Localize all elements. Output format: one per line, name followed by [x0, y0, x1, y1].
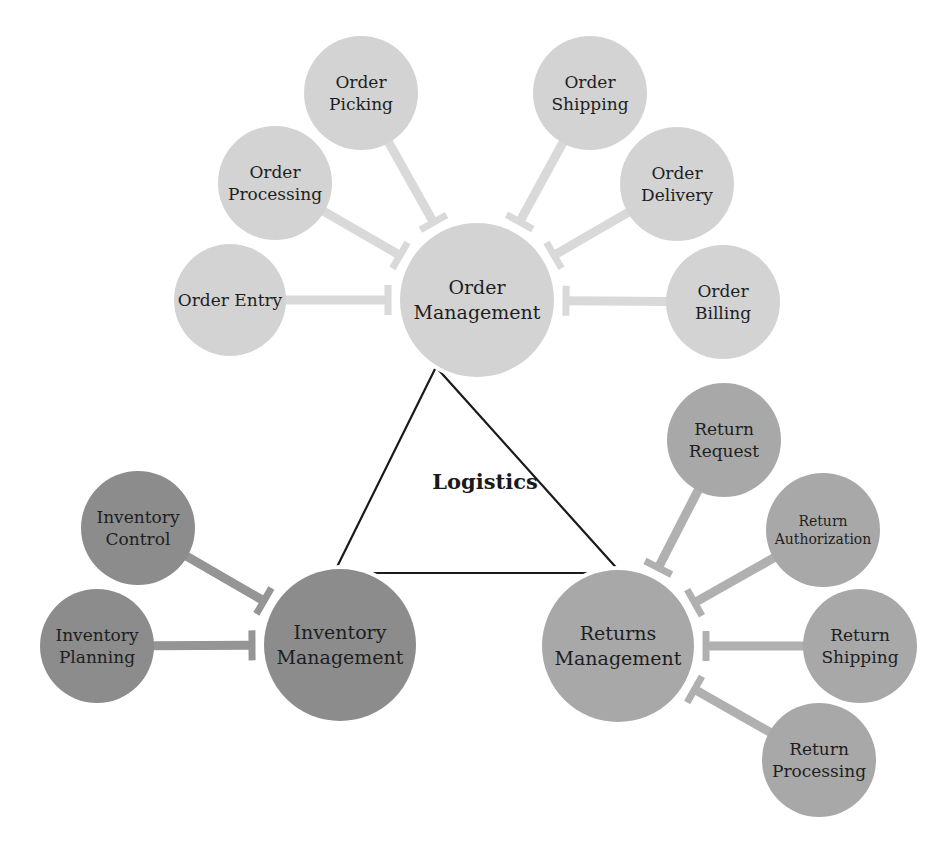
return-shipping-node[interactable]: ReturnShipping	[803, 589, 917, 703]
return-request-label: ReturnRequest	[689, 419, 759, 461]
return-shipping-connector	[706, 631, 807, 661]
order-picking-connector	[387, 139, 447, 229]
order-picking-node[interactable]: OrderPicking	[304, 36, 418, 150]
order-picking-label: OrderPicking	[329, 72, 393, 114]
order-billing-node[interactable]: OrderBilling	[666, 245, 780, 359]
order-delivery-label: OrderDelivery	[641, 163, 713, 205]
order-delivery-node[interactable]: OrderDelivery	[620, 127, 734, 241]
order-management-node[interactable]: OrderManagement	[396, 219, 558, 381]
order-billing-connector	[566, 286, 670, 316]
return-request-connector	[645, 487, 700, 574]
order-entry-label: Order Entry	[178, 290, 283, 310]
order-billing-label: OrderBilling	[695, 281, 751, 323]
inventory-control-connector	[184, 555, 272, 614]
inventory-management-node[interactable]: InventoryManagement	[260, 565, 420, 725]
return-authorization-connector	[687, 556, 777, 616]
logistics-diagram: OrderManagementInventoryManagementReturn…	[0, 0, 941, 849]
inventory-planning-connector	[150, 630, 252, 660]
order-shipping-node[interactable]: OrderShipping	[533, 36, 647, 150]
order-processing-node[interactable]: OrderProcessing	[218, 126, 332, 240]
order-shipping-connector	[506, 140, 564, 230]
order-processing-connector	[321, 210, 408, 269]
order-entry-node[interactable]: Order Entry	[174, 244, 286, 356]
center-title: Logistics	[432, 469, 538, 494]
returns-management-node[interactable]: ReturnsManagement	[538, 566, 698, 726]
return-request-node[interactable]: ReturnRequest	[667, 383, 781, 497]
inventory-planning-label: InventoryPlanning	[55, 625, 138, 667]
inventory-control-node[interactable]: InventoryControl	[81, 471, 195, 585]
inventory-planning-node[interactable]: InventoryPlanning	[40, 589, 154, 703]
return-shipping-label: ReturnShipping	[821, 625, 898, 667]
order-delivery-connector	[546, 211, 631, 269]
return-processing-node[interactable]: ReturnProcessing	[762, 703, 876, 817]
return-authorization-node[interactable]: ReturnAuthorization	[766, 473, 880, 587]
return-processing-connector	[687, 676, 773, 733]
order-entry-connector	[282, 285, 388, 315]
nodes-layer: OrderManagementInventoryManagementReturn…	[40, 36, 917, 817]
inventory-control-label: InventoryControl	[96, 507, 179, 549]
